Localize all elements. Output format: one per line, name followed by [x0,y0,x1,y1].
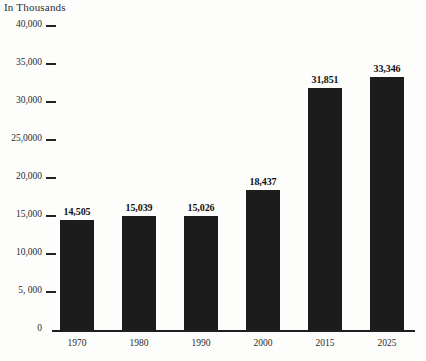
y-axis-tick-label: 40,000 [16,19,42,29]
x-axis-tick-label: 2015 [295,338,355,348]
y-axis-tick-mark [46,63,56,65]
y-axis-tick-label: 5, 000 [18,285,42,295]
y-axis-tick-mark [46,139,56,141]
y-axis-tick-mark [46,291,56,293]
y-axis-tick-label: 25,0000 [11,133,42,143]
y-axis-tick-label: 20,000 [16,171,42,181]
y-axis-tick-label: 15,000 [16,209,42,219]
y-axis-tick-mark [46,177,56,179]
bar-value-label: 14,505 [48,206,106,217]
bar-value-label: 31,851 [296,74,354,85]
bar [370,77,404,330]
bar [246,190,280,330]
plot-area: 05, 00010,00015,00020,00025,000030,00035… [0,0,426,361]
bar-value-label: 15,026 [172,202,230,213]
x-axis-tick-label: 2000 [233,338,293,348]
y-axis-tick-label: 30,000 [16,95,42,105]
x-axis-line [52,330,415,332]
bar-chart: In Thousands 05, 00010,00015,00020,00025… [0,0,426,361]
y-axis-tick-label: 35,000 [16,57,42,67]
y-axis-tick-mark [46,101,56,103]
bar [184,216,218,330]
bar [308,88,342,330]
x-axis-tick-label: 1980 [109,338,169,348]
bar-value-label: 18,437 [234,176,292,187]
x-axis-tick-label: 2025 [357,338,417,348]
bar-value-label: 15,039 [110,202,168,213]
y-axis-tick-mark [46,25,56,27]
x-axis-tick-label: 1990 [171,338,231,348]
y-axis-tick-label: 10,000 [16,247,42,257]
bar [122,216,156,330]
y-axis-tick-mark [46,253,56,255]
bar-value-label: 33,346 [358,63,416,74]
x-axis-tick-label: 1970 [47,338,107,348]
y-axis-tick-label: 0 [37,323,42,333]
bar [60,220,94,330]
